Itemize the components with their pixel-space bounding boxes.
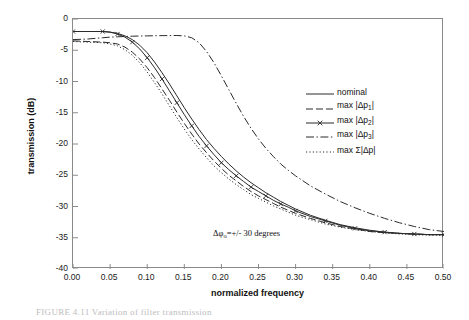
figure-container: transmission (dB) 0-5-10-15-20-25-30-35-… bbox=[0, 0, 469, 320]
legend-label-max-dp1: max |Δp1| bbox=[337, 100, 374, 113]
legend-item-max-sum-dp: max Σ|Δp| bbox=[305, 143, 429, 157]
series-marker bbox=[249, 185, 253, 189]
y-axis-ticks: 0-5-10-15-20-25-30-35-40 bbox=[30, 18, 68, 268]
y-tick-label: -10 bbox=[34, 76, 68, 85]
x-tick-label: 0.35 bbox=[312, 272, 352, 282]
x-tick-label: 0.45 bbox=[386, 272, 426, 282]
annotation-prefix: Δφ bbox=[213, 228, 223, 238]
legend-key-max-dp3-icon bbox=[305, 129, 335, 141]
y-tick-label: -30 bbox=[34, 201, 68, 210]
x-tick-label: 0.10 bbox=[126, 272, 166, 282]
x-tick-label: 0.40 bbox=[349, 272, 389, 282]
y-tick-label: -20 bbox=[34, 139, 68, 148]
y-tick-label: -25 bbox=[34, 170, 68, 179]
series-marker bbox=[145, 56, 149, 60]
x-tick-label: 0.15 bbox=[163, 272, 203, 282]
y-tick-label: -5 bbox=[34, 45, 68, 54]
plot-area: Δφo=+/- 30 degrees nominalmax |Δp1|max |… bbox=[72, 18, 443, 268]
legend: nominalmax |Δp1|max |Δp2|max |Δp3|max Σ|… bbox=[305, 85, 429, 157]
y-tick-label: -15 bbox=[34, 107, 68, 116]
legend-key-max-dp2-icon bbox=[305, 115, 335, 127]
series-marker bbox=[219, 161, 223, 165]
legend-label-max-dp3: max |Δp3| bbox=[337, 129, 374, 142]
legend-label-suffix: | bbox=[372, 115, 374, 125]
legend-label-max-sum-dp: max Σ|Δp| bbox=[337, 145, 376, 155]
y-tick-label: -35 bbox=[34, 232, 68, 241]
x-axis-title: normalized frequency bbox=[72, 288, 443, 298]
legend-label-suffix: | bbox=[372, 100, 374, 110]
legend-label-prefix: nominal bbox=[337, 87, 367, 97]
series-marker bbox=[204, 144, 208, 148]
legend-label-prefix: max |Δp bbox=[337, 100, 368, 110]
x-axis-ticks: 0.000.050.100.150.200.250.300.350.400.45… bbox=[72, 272, 443, 286]
series-marker bbox=[190, 124, 194, 128]
legend-item-max-dp3: max |Δp3| bbox=[305, 128, 429, 142]
series-marker bbox=[160, 77, 164, 81]
y-tick-label: 0 bbox=[34, 14, 68, 23]
x-tick-label: 0.50 bbox=[423, 272, 463, 282]
legend-label-suffix: | bbox=[372, 129, 374, 139]
legend-label-max-dp2: max |Δp2| bbox=[337, 115, 374, 128]
x-tick-label: 0.20 bbox=[200, 272, 240, 282]
legend-label-prefix: max Σ|Δp bbox=[337, 145, 373, 155]
series-marker bbox=[130, 40, 134, 44]
legend-item-max-dp1: max |Δp1| bbox=[305, 99, 429, 113]
legend-label-nominal: nominal bbox=[337, 87, 367, 97]
legend-key-max-dp1-icon bbox=[305, 101, 335, 113]
series-marker bbox=[264, 194, 268, 198]
series-marker bbox=[175, 101, 179, 105]
legend-item-max-dp2: max |Δp2| bbox=[305, 114, 429, 128]
legend-item-nominal: nominal bbox=[305, 85, 429, 99]
annotation-phase-deviation: Δφo=+/- 30 degrees bbox=[213, 228, 280, 239]
x-tick-label: 0.25 bbox=[238, 272, 278, 282]
x-tick-label: 0.00 bbox=[52, 272, 92, 282]
legend-key-max-sum-dp-icon bbox=[305, 144, 335, 156]
series-marker bbox=[234, 174, 238, 178]
legend-label-prefix: max |Δp bbox=[337, 115, 368, 125]
figure-caption: FIGURE 4.11 Variation of filter transmis… bbox=[36, 307, 212, 317]
annotation-suffix: =+/- 30 degrees bbox=[227, 228, 281, 238]
legend-label-prefix: max |Δp bbox=[337, 129, 368, 139]
x-tick-label: 0.30 bbox=[275, 272, 315, 282]
legend-key-nominal-icon bbox=[305, 86, 335, 98]
series-marker bbox=[279, 202, 283, 206]
x-tick-label: 0.05 bbox=[89, 272, 129, 282]
legend-label-suffix: | bbox=[373, 145, 375, 155]
